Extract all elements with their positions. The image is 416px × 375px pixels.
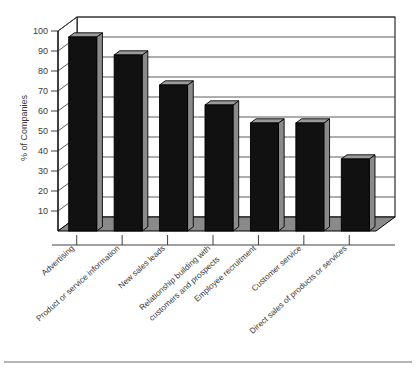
bar-top-face [341,155,375,159]
bar-side-face [97,33,103,231]
bar-side-face [324,119,330,231]
bar-front-face [250,123,278,231]
y-axis-tick-label: 80 [38,66,48,76]
bar-front-face [205,105,233,231]
y-axis-title-text: % of Companies [19,94,29,161]
y-axis-tick-label: 90 [38,46,48,56]
bar-top-face [114,51,148,55]
chart-canvas: 102030405060708090100 % of Companies Adv… [0,0,416,375]
y-axis-tick-label: 70 [38,86,48,96]
bar-chart-figure: 102030405060708090100 % of Companies Adv… [0,0,416,375]
bar-side-face [278,119,284,231]
y-axis-tick-label: 100 [33,26,48,36]
bar-front-face [341,159,369,231]
y-axis-tick-label: 50 [38,126,48,136]
bar-top-face [250,119,284,123]
bar-front-face [160,85,188,231]
bar [250,119,284,231]
y-axis-tick-label: 10 [38,206,48,216]
bar-side-face [188,81,194,231]
plot-area [51,17,395,245]
bar-top-face [296,119,330,123]
bar-top-face [69,33,103,37]
bar-front-face [114,55,142,231]
y-axis-tick-label: 60 [38,106,48,116]
bar [341,155,375,231]
bar-side-face [142,51,148,231]
bar [205,101,239,231]
bar-side-face [369,155,375,231]
y-axis-tick-label: 20 [38,186,48,196]
y-axis-tick-label: 40 [38,146,48,156]
bar-side-face [233,101,239,231]
bar-front-face [69,37,97,231]
bar-front-face [296,123,324,231]
bar-top-face [160,81,194,85]
y-axis-title: % of Companies [19,94,29,161]
bar [69,33,103,231]
bar-top-face [205,101,239,105]
bar [296,119,330,231]
y-axis-tick-label: 30 [38,166,48,176]
bar [160,81,194,231]
bar [114,51,148,231]
